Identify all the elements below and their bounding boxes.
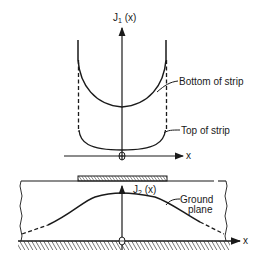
upper-plot: J1 (x) x Bottom of strip Top of strip xyxy=(64,12,244,161)
ground-plane-leader xyxy=(166,199,180,205)
origin-marker-lower xyxy=(119,237,125,245)
lower-plot: J2 (x) x Ground plane xyxy=(18,176,248,250)
ground-plane-curve-dashed-left xyxy=(22,225,48,234)
top-of-strip-annotation: Top of strip xyxy=(181,125,230,136)
j1-x-axis-label: x xyxy=(186,150,191,161)
current-distribution-diagram: J1 (x) x Bottom of strip Top of strip xyxy=(0,0,259,262)
j2-axis-label: J2 (x) xyxy=(133,184,156,196)
ground-plane-curve-dashed-right xyxy=(200,222,224,234)
left-break-edge xyxy=(20,181,22,241)
right-break-edge xyxy=(225,181,227,241)
ground-plane-current-curve xyxy=(48,193,200,225)
top-of-strip-leader xyxy=(164,130,180,133)
j1-axis-label: J1 (x) xyxy=(113,12,136,24)
j2-x-axis-label: x xyxy=(243,235,248,246)
ground-plane-annotation-line2: plane xyxy=(188,204,213,215)
bottom-of-strip-annotation: Bottom of strip xyxy=(179,76,244,87)
strip-conductor xyxy=(78,176,167,181)
